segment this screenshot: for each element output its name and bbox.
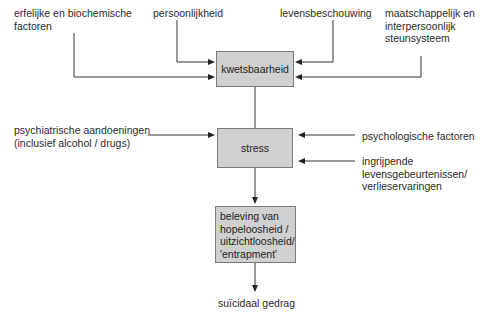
node-stress: stress xyxy=(217,128,293,168)
arrowhead-icon xyxy=(252,197,258,204)
arrowhead-icon xyxy=(298,158,305,164)
edge-support xyxy=(300,56,421,77)
label-line: (inclusief alcohol / drugs) xyxy=(14,137,150,150)
label-psychiatric: psychiatrische aandoeningen (inclusief a… xyxy=(14,124,150,149)
node-vulnerability: kwetsbaarheid xyxy=(216,51,294,87)
label-line: verlieservaringen xyxy=(362,180,467,193)
arrowhead-icon xyxy=(208,132,215,138)
label-hereditary: erfelijke en biochemische factoren xyxy=(14,7,132,32)
arrowhead-icon xyxy=(298,132,305,138)
label-worldview: levensbeschouwing xyxy=(280,7,372,20)
label-line: psychiatrische aandoeningen xyxy=(14,124,150,137)
node-outcome: suïcidaal gedrag xyxy=(218,297,295,310)
label-line: maatschappelijk en xyxy=(385,7,475,20)
label-line: hopeloosheid / xyxy=(220,223,291,236)
label-line: steunsysteem xyxy=(385,32,475,45)
label-line: uitzichtloosheid/ xyxy=(220,235,291,248)
arrowhead-icon xyxy=(295,59,302,65)
label-line: 'entrapment' xyxy=(220,248,291,261)
arrowhead-icon xyxy=(208,59,215,65)
node-hopelessness: beleving van hopeloosheid / uitzichtloos… xyxy=(215,206,296,263)
edge-worldview xyxy=(300,20,333,62)
edge-personality xyxy=(177,20,210,62)
label-line: factoren xyxy=(14,20,132,33)
label-psychological: psychologische factoren xyxy=(362,130,475,143)
label-personality: persoonlijkheid xyxy=(153,7,223,20)
arrowhead-icon xyxy=(295,74,302,80)
label-line: interpersoonlijk xyxy=(385,20,475,33)
label-line: beleving van xyxy=(220,210,291,223)
label-support: maatschappelijk en interpersoonlijk steu… xyxy=(385,7,475,45)
edge-hereditary xyxy=(74,33,210,77)
label-line: levensgebeurtenissen/ xyxy=(362,168,467,181)
label-life-events: ingrijpende levensgebeurtenissen/ verlie… xyxy=(362,155,467,193)
arrowhead-icon xyxy=(208,74,215,80)
label-line: ingrijpende xyxy=(362,155,467,168)
arrowhead-icon xyxy=(252,285,258,292)
label-line: erfelijke en biochemische xyxy=(14,7,132,20)
